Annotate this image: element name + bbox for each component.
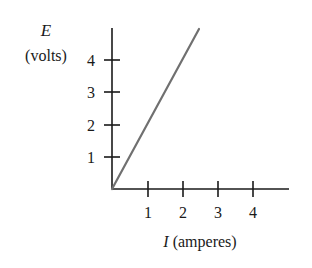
y-tick-labels: 1 2 3 4 [87,52,95,166]
data-line [112,29,199,189]
x-tick-label: 2 [179,204,187,221]
y-tick-label: 1 [87,149,95,166]
y-axis-unit: (volts) [25,47,67,65]
x-tick-label: 1 [144,204,152,221]
x-tick-label: 4 [249,204,257,221]
voltage-current-chart: E (volts) 1 2 3 4 1 2 3 4 [0,0,312,268]
x-tick-labels: 1 2 3 4 [144,204,257,221]
y-axis-variable: E [40,21,52,40]
x-tick-label: 3 [214,204,222,221]
x-axis-label: I (amperes) [162,233,236,251]
y-tick-label: 2 [87,117,95,134]
x-axis-unit: (amperes) [173,233,237,251]
y-tick-label: 3 [87,84,95,101]
y-tick-label: 4 [87,52,95,69]
